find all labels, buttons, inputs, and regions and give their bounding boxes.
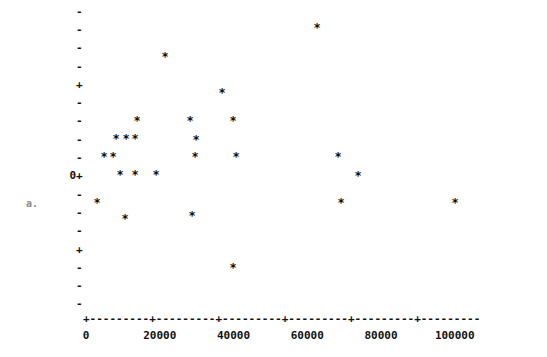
y-axis-tick: -	[62, 6, 84, 17]
y-axis-tick: -	[62, 134, 84, 145]
y-axis-tick: -	[62, 42, 84, 53]
data-point: *	[161, 51, 168, 63]
y-axis-tick: -	[62, 280, 84, 291]
x-tick-label: 20000	[143, 330, 176, 341]
data-point: *	[229, 262, 236, 274]
y-axis-tick: -	[62, 97, 84, 108]
y-tick-mark: -	[76, 225, 84, 236]
y-tick-mark: +	[76, 79, 84, 90]
y-axis-tick: +	[62, 79, 84, 90]
data-point: *	[133, 115, 140, 127]
y-tick-mark: -	[76, 97, 84, 108]
x-axis-line: +---------+---------+---------+---------…	[83, 313, 480, 324]
y-tick-mark: -	[76, 262, 84, 273]
data-point: *	[152, 169, 159, 181]
y-tick-mark: -	[76, 298, 84, 309]
data-point: *	[232, 151, 239, 163]
data-point: *	[188, 210, 195, 222]
y-axis-caption: a.	[26, 199, 38, 209]
data-point: *	[192, 134, 199, 146]
data-point: *	[121, 213, 128, 225]
y-tick-mark: +	[76, 244, 84, 255]
y-tick-mark: -	[76, 152, 84, 163]
y-axis-tick: -	[62, 298, 84, 309]
y-tick-mark: -	[76, 280, 84, 291]
y-axis-tick: -	[62, 189, 84, 200]
y-axis-tick: -	[62, 24, 84, 35]
y-axis-tick: 0+	[62, 170, 84, 181]
y-tick-mark: -	[76, 134, 84, 145]
y-axis-tick: -	[62, 262, 84, 273]
y-tick-mark: -	[76, 6, 84, 17]
data-point: *	[131, 133, 138, 145]
y-tick-mark: -	[76, 42, 84, 53]
data-point: *	[186, 115, 193, 127]
x-tick-label: 0	[83, 330, 90, 341]
data-point: *	[191, 151, 198, 163]
y-tick-mark: -	[76, 207, 84, 218]
y-axis-tick: -	[62, 225, 84, 236]
x-tick-label: 60000	[291, 330, 324, 341]
y-axis-tick: -	[62, 207, 84, 218]
data-point: *	[451, 197, 458, 209]
data-point: *	[93, 197, 100, 209]
data-point: *	[116, 169, 123, 181]
y-tick-label: 0	[62, 170, 76, 181]
x-tick-label: 40000	[217, 330, 250, 341]
data-point: *	[313, 22, 320, 34]
y-tick-mark: -	[76, 189, 84, 200]
y-tick-mark: -	[76, 61, 84, 72]
y-tick-mark: -	[76, 115, 84, 126]
y-axis-tick: -	[62, 152, 84, 163]
data-point: *	[112, 133, 119, 145]
data-point: *	[337, 197, 344, 209]
x-tick-label: 80000	[364, 330, 397, 341]
x-tick-label: 100000	[435, 330, 475, 341]
scatter-plot: a. ----+----0+---+--- ******************…	[0, 0, 547, 357]
y-axis-tick: -	[62, 61, 84, 72]
data-point: *	[229, 115, 236, 127]
y-tick-mark: +	[76, 170, 84, 181]
data-point: *	[131, 169, 138, 181]
data-point: *	[109, 151, 116, 163]
data-point: *	[218, 87, 225, 99]
y-axis-tick: +	[62, 244, 84, 255]
data-point: *	[100, 151, 107, 163]
y-tick-mark: -	[76, 24, 84, 35]
data-point: *	[354, 170, 361, 182]
y-axis-tick: -	[62, 115, 84, 126]
data-point: *	[122, 133, 129, 145]
data-point: *	[334, 151, 341, 163]
